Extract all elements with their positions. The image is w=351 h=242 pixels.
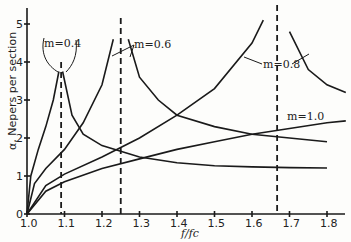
x-tick-label: 1.6 [245,217,263,230]
label-m04: m=0.4 [44,37,81,50]
x-tick-label: 1.1 [58,217,76,230]
label-m08: m=0.8 [263,58,300,71]
x-tick-label: 1.2 [95,217,113,230]
chart-svg: 1.01.11.21.31.41.51.61.71.8012345 m=0.4 … [0,0,351,242]
x-tick-label: 1.8 [320,217,338,230]
x-tick-label: 1.3 [133,217,151,230]
arrow-m08-left [244,57,262,64]
x-axis-label: f/fc [180,227,199,240]
x-tick-label: 1.5 [208,217,226,230]
y-tick-label: 1 [16,170,23,183]
label-m10: m=1.0 [287,110,324,123]
x-tick-label: 1.7 [283,217,301,230]
y-axis-label: α, Nepers per section [6,32,19,150]
label-m06: m=0.6 [134,38,171,51]
curve-m-0-6-below-f- [27,39,113,214]
y-tick-label: 0 [16,208,23,221]
y-tick-label: 5 [16,18,23,31]
attenuation-chart: 1.01.11.21.31.41.51.61.71.8012345 m=0.4 … [0,0,351,242]
